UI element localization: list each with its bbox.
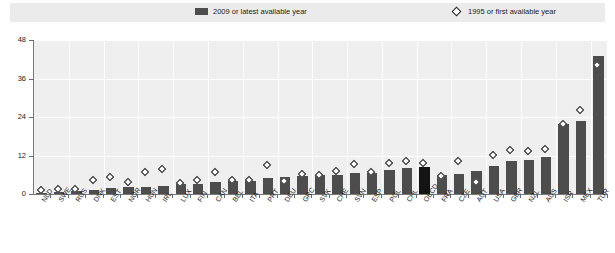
bar-group[interactable] <box>158 40 168 194</box>
bar-group[interactable] <box>419 40 429 194</box>
bar[interactable] <box>593 56 603 194</box>
diamond-marker[interactable] <box>419 159 427 167</box>
diamond-marker[interactable] <box>158 164 166 172</box>
diamond-marker[interactable] <box>402 157 410 165</box>
bar-group[interactable] <box>541 40 551 194</box>
diamond-marker[interactable] <box>541 144 549 152</box>
diamond-marker[interactable] <box>106 173 114 181</box>
chart-container: 2009 or latest available year 1995 or fi… <box>0 0 615 253</box>
bar-group[interactable] <box>89 40 99 194</box>
bar-group[interactable] <box>280 40 290 194</box>
y-axis-tick-label: 36 <box>0 75 26 83</box>
bar-group[interactable] <box>123 40 133 194</box>
legend: 2009 or latest available year 1995 or fi… <box>10 3 605 22</box>
legend-bars-label: 2009 or latest available year <box>213 8 307 16</box>
bar[interactable] <box>524 160 534 194</box>
diamond-marker-icon <box>452 7 462 17</box>
bar-group[interactable] <box>524 40 534 194</box>
bar-group[interactable] <box>263 40 273 194</box>
bar-group[interactable] <box>228 40 238 194</box>
bar-group[interactable] <box>506 40 516 194</box>
bar-group[interactable] <box>350 40 360 194</box>
bar-group[interactable] <box>593 40 603 194</box>
diamond-marker[interactable] <box>454 157 462 165</box>
diamond-marker[interactable] <box>210 168 218 176</box>
diamond-marker[interactable] <box>523 147 531 155</box>
y-axis-tick-label: 12 <box>0 152 26 160</box>
y-axis-tick-label: 24 <box>0 113 26 121</box>
legend-item-bars: 2009 or latest available year <box>195 8 307 16</box>
bar-group[interactable] <box>558 40 568 194</box>
bar-group[interactable] <box>141 40 151 194</box>
legend-item-markers: 1995 or first available year <box>450 8 556 16</box>
bar-group[interactable] <box>176 40 186 194</box>
bar-group[interactable] <box>367 40 377 194</box>
bar-group[interactable] <box>106 40 116 194</box>
bar-group[interactable] <box>245 40 255 194</box>
legend-markers-label: 1995 or first available year <box>468 8 556 16</box>
diamond-marker[interactable] <box>384 159 392 167</box>
data-series-layer <box>33 40 607 194</box>
bar-group[interactable] <box>36 40 46 194</box>
diamond-marker[interactable] <box>123 178 131 186</box>
diamond-marker[interactable] <box>141 168 149 176</box>
bar-group[interactable] <box>384 40 394 194</box>
bar-group[interactable] <box>297 40 307 194</box>
bar[interactable] <box>558 124 568 194</box>
bar-group[interactable] <box>54 40 64 194</box>
y-axis-tick-label: 48 <box>0 36 26 44</box>
bar-group[interactable] <box>471 40 481 194</box>
bar-group[interactable] <box>315 40 325 194</box>
diamond-marker[interactable] <box>489 150 497 158</box>
bar-group[interactable] <box>402 40 412 194</box>
diamond-marker[interactable] <box>506 146 514 154</box>
bar-group[interactable] <box>210 40 220 194</box>
bar-swatch-icon <box>195 8 208 15</box>
diamond-marker[interactable] <box>350 160 358 168</box>
bar-group[interactable] <box>576 40 586 194</box>
bar-group[interactable] <box>454 40 464 194</box>
diamond-marker[interactable] <box>263 161 271 169</box>
diamond-marker[interactable] <box>332 166 340 174</box>
diamond-marker[interactable] <box>89 176 97 184</box>
diamond-marker[interactable] <box>576 105 584 113</box>
bar-group[interactable] <box>437 40 447 194</box>
bar-group[interactable] <box>332 40 342 194</box>
bar-group[interactable] <box>71 40 81 194</box>
y-axis-tick-label: 0 <box>0 190 26 198</box>
bar-group[interactable] <box>193 40 203 194</box>
bar[interactable] <box>576 121 586 194</box>
bar-group[interactable] <box>489 40 499 194</box>
